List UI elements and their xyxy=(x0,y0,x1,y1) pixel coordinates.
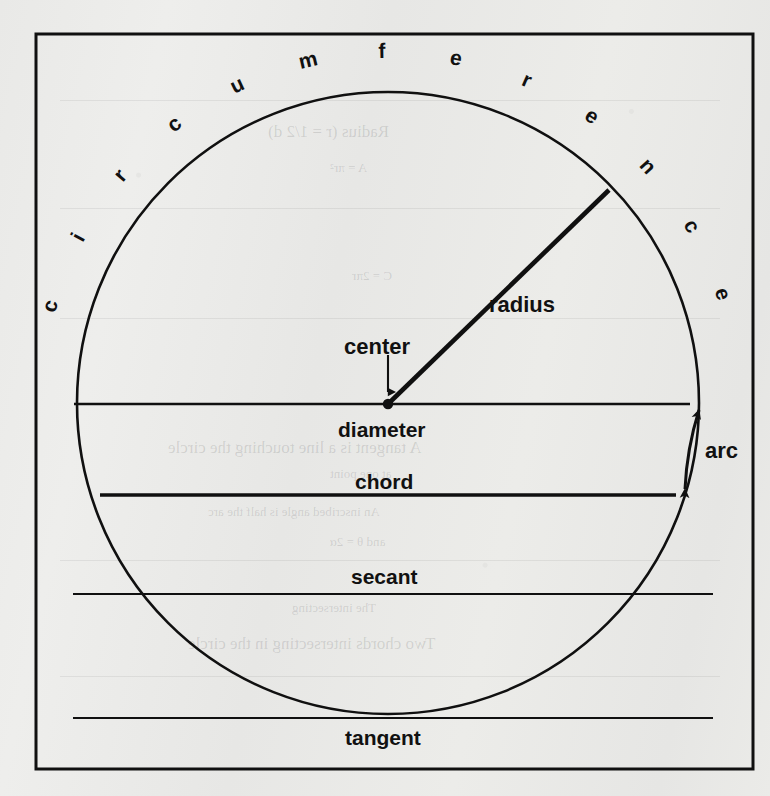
label-diameter: diameter xyxy=(338,418,426,442)
label-chord: chord xyxy=(355,470,413,494)
label-secant: secant xyxy=(351,565,418,589)
circle-diagram xyxy=(0,0,770,796)
figure-page: Radius (r = 1/2 d)A = πr²C = 2πrA tangen… xyxy=(0,0,770,796)
circumference-letter: f xyxy=(378,39,385,63)
label-center: center xyxy=(344,334,410,360)
arc-marker-arrow xyxy=(685,410,699,489)
center-point-dot xyxy=(383,399,393,409)
label-radius: radius xyxy=(489,292,555,318)
figure-frame xyxy=(36,34,753,769)
label-tangent: tangent xyxy=(345,726,421,750)
label-arc: arc xyxy=(705,438,738,464)
